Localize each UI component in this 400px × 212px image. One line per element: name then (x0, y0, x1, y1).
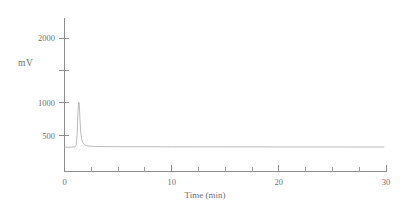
x-axis-tick-labels: 0102030 (62, 177, 390, 187)
chart-canvas: 50010002000 0102030 mV Time (min) (0, 0, 400, 212)
x-axis-minor-ticks (91, 167, 359, 172)
x-axis-label: Time (min) (185, 190, 226, 200)
signal-trace (65, 102, 384, 147)
chromatogram-figure: 50010002000 0102030 mV Time (min) (0, 0, 400, 212)
y-axis-label: mV (18, 58, 33, 68)
x-tick-label-20: 20 (275, 177, 284, 187)
y-tick-label-2000: 2000 (38, 33, 55, 43)
x-tick-label-30: 30 (382, 177, 391, 187)
x-tick-label-0: 0 (62, 177, 66, 187)
y-tick-label-500: 500 (42, 131, 55, 141)
y-tick-label-1000: 1000 (38, 98, 55, 108)
x-tick-label-10: 10 (167, 177, 176, 187)
y-axis-tick-labels: 50010002000 (38, 33, 55, 140)
